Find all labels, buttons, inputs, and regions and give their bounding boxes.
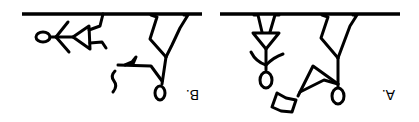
leg-line: [321, 15, 338, 58]
panel-a: A.: [220, 14, 400, 112]
panel-b-lying-figure: [36, 14, 106, 52]
arm-line: [266, 54, 283, 65]
held-object-icon: [125, 57, 136, 65]
leg-line: [338, 15, 357, 58]
arm-line: [251, 52, 266, 65]
panel-b-hanging-figure: [112, 15, 188, 100]
leg-line: [254, 15, 262, 32]
panel-b: B.: [22, 14, 202, 103]
dress-triangle: [73, 26, 90, 49]
leg-line: [270, 15, 279, 32]
head-icon: [332, 88, 344, 104]
panel-a-dress-figure: [251, 15, 283, 88]
head-icon: [260, 72, 272, 88]
diagram-canvas: B.: [0, 0, 419, 122]
head-icon: [155, 86, 165, 100]
leg-line: [166, 15, 188, 57]
leg-line: [150, 15, 166, 57]
stick-figure-diagram: B.: [0, 0, 419, 122]
leg-line: [90, 42, 106, 48]
head-icon: [36, 32, 50, 42]
wavy-tail-icon: [112, 71, 116, 92]
arm-line: [56, 22, 68, 37]
panel-b-label: B.: [186, 87, 199, 103]
box-icon: [272, 93, 296, 112]
arm-line: [56, 37, 69, 52]
arm-line: [118, 65, 162, 81]
panel-a-hanging-figure: [272, 15, 357, 112]
dress-triangle: [253, 33, 279, 49]
panel-a-label: A.: [382, 87, 395, 103]
leg-line: [89, 14, 103, 30]
